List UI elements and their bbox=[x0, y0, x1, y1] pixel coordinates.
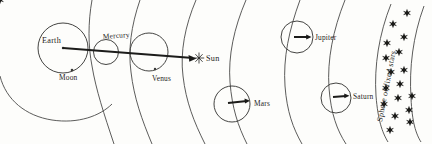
mars-group bbox=[214, 86, 250, 122]
star-glyph bbox=[391, 112, 399, 120]
saturn-circle bbox=[321, 83, 351, 113]
label-earth: Earth bbox=[42, 36, 61, 45]
mars-circle bbox=[214, 86, 250, 122]
saturn-arrow-head bbox=[344, 93, 349, 98]
star-glyph bbox=[383, 39, 391, 47]
labels-group: Earth Moon Mercury Venus Sun Mars Jupite… bbox=[42, 30, 398, 122]
jupiter-group bbox=[281, 21, 313, 53]
star-glyph bbox=[386, 126, 394, 134]
star-glyph bbox=[408, 92, 416, 100]
saturn-group bbox=[321, 83, 351, 113]
mars-radius-shaft bbox=[228, 101, 247, 103]
label-moon: Moon bbox=[59, 73, 78, 82]
label-sphere-of-fixed-stars: Sphere of fixed stars bbox=[375, 50, 398, 123]
fixed-stars-group bbox=[0, 0, 416, 134]
sun-burst-icon bbox=[194, 53, 204, 64]
venus-circle bbox=[130, 33, 168, 71]
orbit-arc-saturn bbox=[329, 0, 346, 144]
label-sun: Sun bbox=[206, 54, 220, 63]
star-glyph bbox=[403, 9, 411, 17]
cosmology-svg: Earth Moon Mercury Venus Sun Mars Jupite… bbox=[0, 0, 432, 144]
venus-group bbox=[130, 33, 168, 71]
earth-sun-arrow-shaft bbox=[63, 48, 193, 58]
label-jupiter: Jupiter bbox=[315, 33, 337, 42]
star-glyph bbox=[394, 94, 402, 102]
orbit-arc-venus bbox=[130, 0, 152, 144]
orbit-arcs-group bbox=[0, 0, 424, 144]
saturn-radius-shaft bbox=[333, 96, 346, 97]
star-glyph bbox=[396, 80, 404, 88]
moon-marker-dot bbox=[71, 69, 74, 72]
star-glyph bbox=[400, 66, 408, 74]
sun-group bbox=[194, 53, 204, 64]
orbit-arc-sun bbox=[182, 0, 205, 144]
label-venus: Venus bbox=[152, 74, 171, 83]
label-saturn: Saturn bbox=[353, 92, 374, 101]
venus-marker-dot bbox=[154, 68, 156, 70]
star-glyph bbox=[400, 33, 408, 41]
orbit-arc-mercury bbox=[89, 0, 114, 144]
stellar-band-outer-arc bbox=[411, 6, 424, 142]
label-mars: Mars bbox=[254, 99, 270, 108]
label-mercury: Mercury bbox=[103, 30, 131, 41]
star-glyph bbox=[389, 20, 397, 28]
jupiter-arrow-head bbox=[306, 35, 311, 40]
diagram-canvas: Earth Moon Mercury Venus Sun Mars Jupite… bbox=[0, 0, 432, 144]
